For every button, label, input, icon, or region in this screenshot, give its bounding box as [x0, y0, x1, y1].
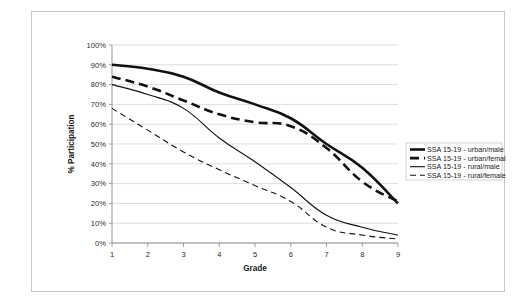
chart-frame: 0%10%20%30%40%50%60%70%80%90%100%1234567…: [31, 11, 505, 292]
x-axis-tick-label: 3: [181, 250, 185, 259]
legend-label-3: SSA 15-19 - rural/female: [427, 171, 506, 180]
x-axis-tick-label: 7: [324, 250, 328, 259]
x-axis-tick-label: 2: [146, 250, 150, 259]
y-axis-tick-label: 20%: [91, 199, 106, 208]
y-axis-tick-label: 60%: [91, 120, 106, 129]
y-axis-tick-label: 10%: [91, 219, 106, 228]
y-axis-tick-label: 100%: [87, 41, 107, 50]
y-axis-tick-label: 70%: [91, 100, 106, 109]
y-axis-tick-label: 0%: [95, 239, 106, 248]
x-axis-tick-label: 9: [396, 250, 400, 259]
participation-line-chart: 0%10%20%30%40%50%60%70%80%90%100%1234567…: [32, 12, 506, 293]
x-axis-title: Grade: [243, 264, 267, 273]
series-line-0: [112, 65, 398, 204]
x-axis-tick-label: 4: [217, 250, 221, 259]
x-axis-tick-label: 8: [360, 250, 364, 259]
y-axis-tick-label: 90%: [91, 61, 106, 70]
y-axis-tick-label: 80%: [91, 80, 106, 89]
series-line-1: [112, 77, 398, 202]
y-axis-tick-label: 30%: [91, 179, 106, 188]
y-axis-tick-label: 40%: [91, 160, 106, 169]
series-line-3: [112, 108, 398, 239]
series-line-2: [112, 85, 398, 235]
x-axis-tick-label: 5: [253, 250, 257, 259]
y-axis-title: % Participation: [67, 114, 76, 173]
y-axis-tick-label: 50%: [91, 140, 106, 149]
x-axis-tick-label: 1: [110, 250, 114, 259]
x-axis-tick-label: 6: [289, 250, 293, 259]
